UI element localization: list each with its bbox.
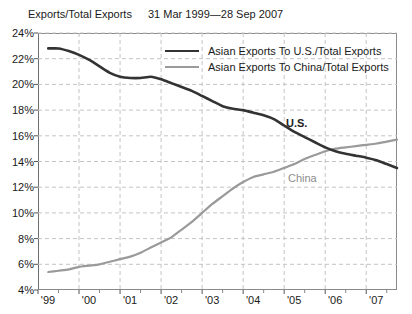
legend-label-china: Asian Exports To China/Total Exports — [208, 61, 389, 73]
x-tick-label: '00 — [82, 294, 96, 306]
x-tick-label: '01 — [123, 294, 137, 306]
y-tick-label: 14% — [0, 156, 34, 168]
x-tick-label: '02 — [164, 294, 178, 306]
legend-item-china: Asian Exports To China/Total Exports — [165, 60, 389, 74]
legend: Asian Exports To U.S./Total Exports Asia… — [165, 44, 389, 76]
series-line-china — [48, 140, 397, 272]
x-tick-label: '06 — [328, 294, 342, 306]
y-tick-label: 24% — [0, 27, 34, 39]
series-annotation-us: U.S. — [286, 117, 307, 129]
x-tick-label: '03 — [205, 294, 219, 306]
legend-swatch-us — [165, 50, 199, 52]
x-tick-label: '99 — [41, 294, 55, 306]
y-tick-label: 12% — [0, 181, 34, 193]
legend-label-us: Asian Exports To U.S./Total Exports — [208, 45, 381, 57]
y-tick-label: 22% — [0, 53, 34, 65]
legend-swatch-china — [165, 66, 199, 68]
legend-item-us: Asian Exports To U.S./Total Exports — [165, 44, 389, 58]
chart-container: Exports/Total Exports 31 Mar 1999—28 Sep… — [0, 0, 412, 314]
x-tick-label: '04 — [246, 294, 260, 306]
y-tick-label: 10% — [0, 207, 34, 219]
y-tick-label: 20% — [0, 78, 34, 90]
x-tick-label: '07 — [369, 294, 383, 306]
series-annotation-china: China — [288, 172, 317, 184]
y-tick-label: 6% — [0, 258, 34, 270]
x-tick-label: '05 — [287, 294, 301, 306]
y-tick-label: 4% — [0, 284, 34, 296]
y-tick-label: 18% — [0, 104, 34, 116]
y-tick-label: 8% — [0, 233, 34, 245]
y-tick-label: 16% — [0, 130, 34, 142]
